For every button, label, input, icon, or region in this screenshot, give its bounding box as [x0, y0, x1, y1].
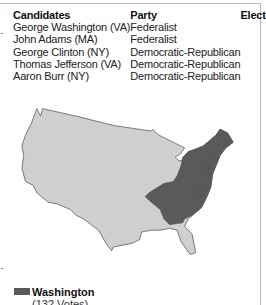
votes-cell: 50 [240, 46, 266, 58]
candidate-cell: Aaron Burr (NY) [13, 70, 130, 82]
table-row: John Adams (MA)Federalist77 [13, 33, 266, 45]
votes-cell: 132 [240, 21, 266, 33]
legend-votes: (132 Votes) [14, 298, 95, 305]
legend-name: Washington [32, 286, 95, 298]
table-row: George Washington (VA)Federalist132 [13, 21, 266, 33]
candidate-cell: Thomas Jefferson (VA) [13, 58, 130, 70]
header-candidates: Candidates [13, 9, 130, 21]
party-cell: Democratic-Republican [130, 70, 240, 82]
party-cell: Democratic-Republican [130, 46, 240, 58]
header-electoral-vote: Electoral Vote [240, 9, 266, 21]
candidate-cell: George Washington (VA) [13, 21, 130, 33]
us-map [20, 100, 250, 265]
table-row: Thomas Jefferson (VA)Democratic-Republic… [13, 58, 266, 70]
party-cell: Federalist [130, 21, 240, 33]
party-cell: Democratic-Republican [130, 58, 240, 70]
party-cell: Federalist [130, 33, 240, 45]
table-header-row: Candidates Party Electoral Vote [13, 9, 266, 21]
table-row: Aaron Burr (NY)Democratic-Republican1 [13, 70, 266, 82]
legend-swatch [14, 288, 30, 295]
edge-tick [1, 268, 3, 269]
votes-cell: 1 [240, 70, 266, 82]
map-legend: Washington (132 Votes) [14, 286, 95, 305]
votes-cell: 4 [240, 58, 266, 70]
table-row: George Clinton (NY)Democratic-Republican… [13, 46, 266, 58]
edge-tick [1, 33, 3, 34]
votes-cell: 77 [240, 33, 266, 45]
candidate-cell: John Adams (MA) [13, 33, 130, 45]
header-party: Party [130, 9, 240, 21]
candidate-cell: George Clinton (NY) [13, 46, 130, 58]
candidates-table: Candidates Party Electoral Vote George W… [13, 9, 266, 82]
